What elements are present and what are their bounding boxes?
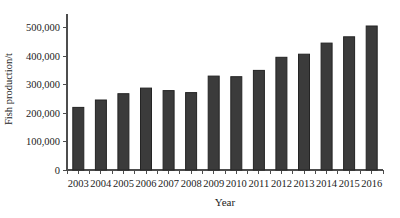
y-tick-label: 0 xyxy=(55,165,60,176)
bar-2012 xyxy=(276,57,287,170)
x-tick-label: 2016 xyxy=(361,178,382,189)
bar-2009 xyxy=(208,76,219,170)
x-tick-label: 2005 xyxy=(113,178,134,189)
x-tick-label: 2007 xyxy=(158,178,179,189)
y-tick-label: 300,000 xyxy=(26,79,60,90)
bar-2008 xyxy=(186,93,197,170)
x-tick-label: 2003 xyxy=(68,178,89,189)
bar-2015 xyxy=(344,37,355,170)
bar-2016 xyxy=(366,26,377,170)
x-tick-label: 2013 xyxy=(294,178,315,189)
y-tick-label: 100,000 xyxy=(26,136,60,147)
x-tick-label: 2012 xyxy=(271,178,292,189)
bar-2006 xyxy=(141,88,152,170)
y-tick-label: 500,000 xyxy=(26,22,60,33)
x-tick-label: 2009 xyxy=(203,178,224,189)
bar-2014 xyxy=(321,43,332,170)
bar-2010 xyxy=(231,77,242,170)
x-tick-label: 2015 xyxy=(339,178,360,189)
fish-production-bar-chart: 0100,000200,000300,000400,000500,0002003… xyxy=(0,0,400,218)
bar-2013 xyxy=(299,54,310,170)
bar-2007 xyxy=(163,91,174,170)
x-tick-label: 2008 xyxy=(181,178,202,189)
x-tick-label: 2004 xyxy=(90,178,112,189)
chart-canvas: 0100,000200,000300,000400,000500,0002003… xyxy=(0,0,400,218)
x-axis-title: Year xyxy=(67,196,383,209)
x-tick-label: 2011 xyxy=(249,178,270,189)
bar-2011 xyxy=(253,70,264,170)
bar-2003 xyxy=(73,107,84,170)
x-tick-label: 2010 xyxy=(226,178,247,189)
bar-2004 xyxy=(95,100,106,170)
x-tick-label: 2006 xyxy=(136,178,157,189)
y-axis-title: Fish production/t xyxy=(3,53,15,125)
y-tick-label: 200,000 xyxy=(26,108,60,119)
bar-2005 xyxy=(118,94,129,170)
y-tick-label: 400,000 xyxy=(26,51,60,62)
x-tick-label: 2014 xyxy=(316,178,338,189)
